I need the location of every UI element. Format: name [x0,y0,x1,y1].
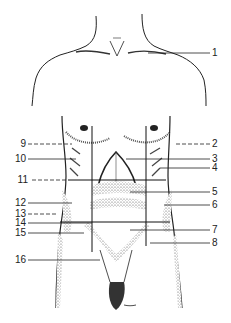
clavicle-shading [76,51,166,54]
neck-outline [60,14,178,56]
label-12: 12 [12,198,26,208]
label-10: 10 [12,154,26,164]
torso-diagram [0,0,231,323]
label-16: 16 [12,255,26,265]
label-2: 2 [212,139,218,149]
label-11: 11 [14,175,28,185]
chest [66,125,170,143]
label-4: 4 [212,163,218,173]
label-8: 8 [212,238,218,248]
label-5: 5 [212,187,218,197]
leader-lines [28,53,210,260]
label-9: 9 [12,139,26,149]
label-7: 7 [212,225,218,235]
label-15: 15 [12,228,26,238]
label-6: 6 [212,200,218,210]
label-1: 1 [212,48,218,58]
